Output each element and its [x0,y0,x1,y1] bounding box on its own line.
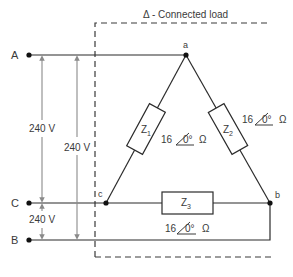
terminal-C: C [11,197,32,209]
line-b-wire [29,203,270,240]
node-b: b [267,190,280,206]
svg-text:16: 16 [242,114,254,125]
voltage-arrow-ac: 240 V [29,58,55,200]
impedance-Z2: Z2 16 0° Ω [208,104,287,155]
impedance-Z3: Z3 16 0° Ω [162,192,213,234]
impedance-Z1: Z1 16 0° Ω [127,104,207,155]
node-a: a [183,40,189,58]
svg-text:0°: 0° [262,114,272,125]
terminal-B: B [11,234,32,246]
svg-text:C: C [11,197,19,209]
voltage-arrow-cb: 240 V [29,206,55,237]
svg-text:240 V: 240 V [29,214,55,225]
svg-text:240 V: 240 V [29,123,55,134]
diagram-title: Δ - Connected load [143,9,228,20]
svg-text:Ω: Ω [202,223,210,234]
svg-text:b: b [275,190,280,200]
svg-text:A: A [11,49,19,61]
svg-text:c: c [98,189,103,199]
svg-text:16: 16 [165,223,177,234]
svg-text:B: B [11,234,18,246]
voltage-arrow-ab: 240 V [64,58,90,237]
svg-text:240 V: 240 V [64,142,90,153]
svg-text:a: a [183,40,188,50]
terminal-A: A [11,49,32,61]
delta-load-circuit: Δ - Connected load A C B a b c 240 V [0,0,293,277]
svg-text:16: 16 [161,134,173,145]
svg-text:Ω: Ω [199,134,207,145]
svg-text:Ω: Ω [279,114,287,125]
svg-text:0°: 0° [185,223,195,234]
svg-text:0°: 0° [183,134,193,145]
